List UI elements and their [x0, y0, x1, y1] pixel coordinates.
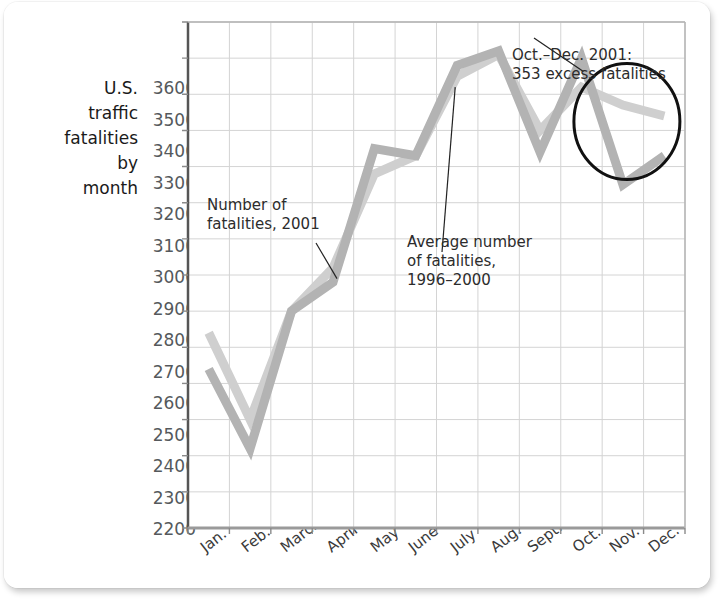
annotation-highlight: Oct.–Dec. 2001: 353 excess fatalities — [512, 46, 666, 84]
annotation-series-average: Average number of fatalities, 1996–2000 — [407, 233, 532, 290]
annotation-series-2001: Number of fatalities, 2001 — [207, 196, 320, 234]
figure-card-inner: U.S. traffic fatalities by month 3600 35… — [4, 2, 710, 588]
figure-page: U.S. traffic fatalities by month 3600 35… — [0, 0, 720, 613]
figure-card: U.S. traffic fatalities by month 3600 35… — [4, 2, 710, 588]
line-chart-plot — [4, 2, 710, 588]
